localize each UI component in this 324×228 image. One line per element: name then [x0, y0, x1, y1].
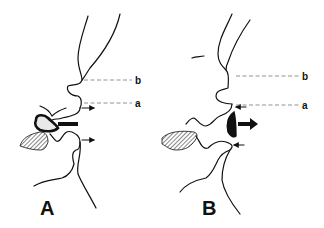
large-arrow-right-b [238, 118, 258, 130]
hatched-region-a [20, 132, 48, 150]
ref-label-a-b: a [302, 100, 308, 111]
chin-neck-a [78, 142, 96, 208]
panel-a: b a A [20, 14, 141, 219]
profile-nose-a [67, 16, 88, 108]
diagram-canvas: b a A b a B [0, 0, 324, 228]
nose-inner-line-a [82, 14, 120, 80]
ref-label-b-b: b [302, 71, 308, 82]
ref-label-a-a: a [135, 98, 141, 109]
nose-inner-line-b [226, 20, 250, 70]
chin-neck-b [222, 150, 240, 214]
brow-mark-b [192, 56, 204, 58]
hatched-region-b [162, 131, 197, 150]
upper-lip-b [186, 104, 232, 126]
tongue-tip-a [35, 115, 58, 131]
panel-b: b a B [162, 14, 308, 219]
large-arrow-left-a [58, 122, 78, 126]
panel-label-b: B [202, 197, 216, 219]
upper-lip-a [52, 108, 80, 120]
everted-lip-b [227, 112, 236, 137]
ref-label-b-a: b [135, 75, 141, 86]
panel-label-a: A [40, 197, 54, 219]
